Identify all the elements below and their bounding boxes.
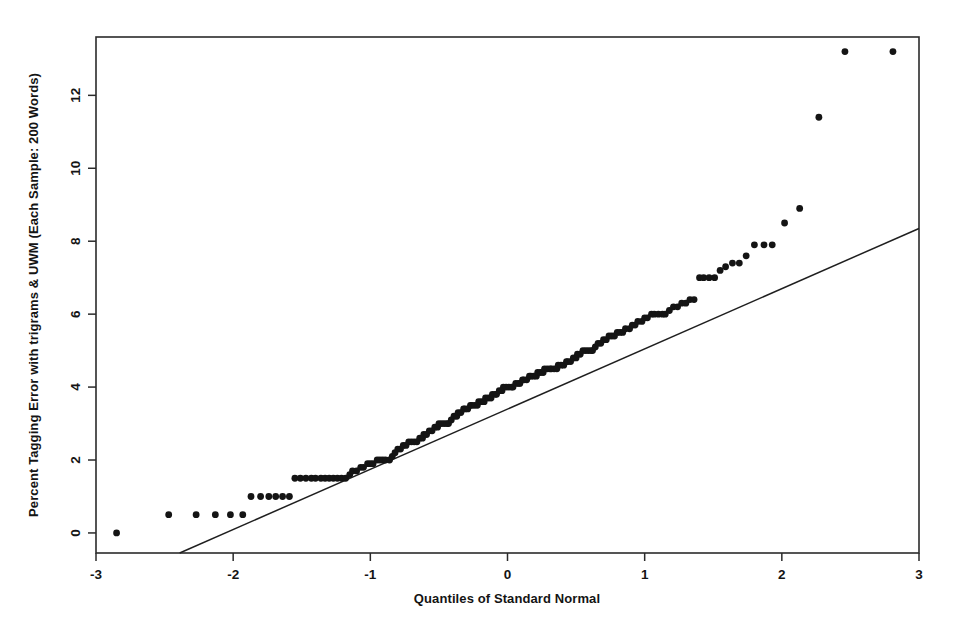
- scatter-point: [248, 493, 255, 500]
- y-tick-label: 2: [69, 456, 84, 464]
- x-tick-label: 1: [641, 567, 649, 582]
- x-tick-label: 2: [778, 567, 786, 582]
- scatter-point-series: [113, 48, 896, 536]
- scatter-point: [239, 511, 246, 518]
- scatter-point: [272, 493, 279, 500]
- scatter-point: [729, 260, 736, 267]
- y-axis-ticks: [88, 95, 96, 533]
- scatter-point: [691, 296, 698, 303]
- scatter-point: [743, 252, 750, 259]
- scatter-point: [890, 48, 897, 55]
- scatter-point: [279, 493, 286, 500]
- scatter-point: [193, 511, 200, 518]
- y-axis-tick-labels: 024681012: [68, 88, 83, 537]
- scatter-point: [781, 220, 788, 227]
- x-axis-ticks: [96, 553, 919, 561]
- scatter-point: [711, 274, 718, 281]
- x-tick-label: -3: [90, 567, 102, 582]
- scatter-point: [113, 530, 120, 537]
- y-tick-label: 4: [69, 383, 84, 391]
- y-axis-title: Percent Tagging Error with trigrams & UW…: [26, 73, 41, 517]
- x-axis-title: Quantiles of Standard Normal: [414, 591, 600, 606]
- y-tick-label: 8: [69, 237, 84, 245]
- qq-plot-figure: -3-2-10123 024681012 Quantiles of Standa…: [0, 0, 954, 642]
- scatter-point: [796, 205, 803, 212]
- qq-plot-canvas: -3-2-10123 024681012 Quantiles of Standa…: [0, 0, 954, 642]
- scatter-point: [265, 493, 272, 500]
- y-tick-label: 6: [69, 310, 84, 318]
- scatter-point: [257, 493, 264, 500]
- scatter-point: [212, 511, 219, 518]
- qq-reference-line: [180, 228, 919, 553]
- scatter-point: [842, 48, 849, 55]
- x-tick-label: 0: [504, 567, 512, 582]
- x-axis-tick-labels: -3-2-10123: [90, 567, 923, 582]
- plot-frame: [96, 37, 919, 553]
- scatter-point: [761, 241, 768, 248]
- scatter-point: [736, 260, 743, 267]
- scatter-point: [227, 511, 234, 518]
- x-tick-label: 3: [915, 567, 923, 582]
- y-tick-label: 10: [68, 161, 83, 176]
- x-tick-label: -1: [364, 567, 376, 582]
- y-tick-label: 12: [69, 88, 84, 103]
- y-tick-label: 0: [69, 529, 84, 537]
- scatter-point: [722, 263, 729, 270]
- scatter-point: [286, 493, 293, 500]
- scatter-point: [165, 511, 172, 518]
- scatter-point: [751, 241, 758, 248]
- scatter-point: [769, 241, 776, 248]
- scatter-point: [815, 114, 822, 121]
- x-tick-label: -2: [227, 567, 239, 582]
